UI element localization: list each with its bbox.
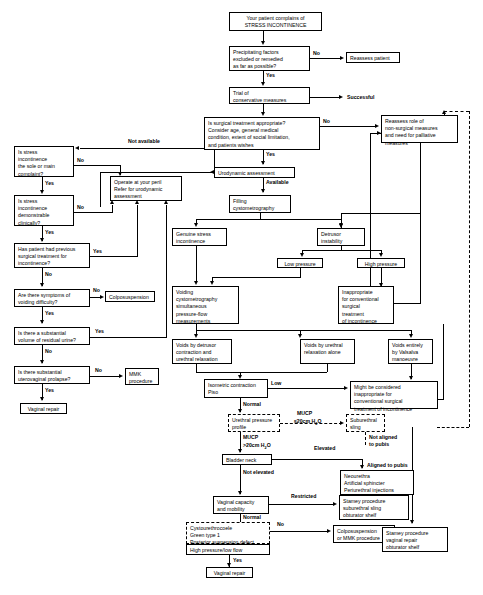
edge-prolapse-no bbox=[90, 376, 121, 377]
edge-label-no-void: No bbox=[93, 288, 100, 293]
edge-label-not-elevated: Not elevated bbox=[243, 470, 274, 475]
edge-vaginal-restricted bbox=[269, 504, 335, 505]
edge-label-available: Available bbox=[266, 180, 289, 185]
node-operate-peril: Operate at your peril Refer for urodynam… bbox=[110, 176, 182, 201]
edge-label-yes-void: Yes bbox=[45, 311, 54, 316]
arrowhead bbox=[238, 491, 242, 495]
edge-label-not-available: Not available bbox=[128, 139, 160, 144]
node-voids-urethral: Voids by urethral relaxation alone bbox=[300, 339, 355, 364]
arrowhead bbox=[194, 334, 198, 338]
node-inappropriate-conventional: Inappropriate for conventional surgical … bbox=[338, 286, 394, 324]
edge-inappropriate-down-h bbox=[438, 399, 444, 400]
edge-label-yes-prolapse: Yes bbox=[45, 388, 54, 393]
arrowhead bbox=[360, 465, 364, 469]
edge-genuine-to-voiding bbox=[196, 246, 197, 283]
node-stamey-vaginal: Stamey procedure vaginal repair obturato… bbox=[382, 527, 448, 552]
edge-reassess-branch-down bbox=[420, 143, 421, 303]
edge-cysto-no bbox=[270, 531, 329, 532]
arrowhead bbox=[340, 56, 344, 60]
node-voids-detrusor: Voids by detrusor contraction and urethr… bbox=[172, 339, 232, 364]
node-precipitating-factors: Precipitating factors excluded or remedi… bbox=[229, 46, 310, 71]
edge-voiding-split bbox=[196, 330, 411, 331]
node-stamey-suburethral: Stamey procedure suburethral sling obtur… bbox=[339, 495, 409, 520]
arrowhead bbox=[300, 253, 304, 257]
arrowhead bbox=[210, 281, 214, 285]
edge-bladder-elevated bbox=[272, 459, 362, 460]
node-residual-urine: Is there a substantial volume of residua… bbox=[14, 327, 90, 345]
node-vaginal-repair-left: Vaginal repair bbox=[20, 403, 67, 414]
edge-label-mucp-high-value: >20cm H2O bbox=[243, 443, 271, 451]
node-low-pressure: Low pressure bbox=[277, 258, 323, 268]
arrowhead bbox=[375, 124, 379, 128]
node-trial-conservative: Trial of conservative measures bbox=[229, 87, 310, 104]
edge-label-low: Low bbox=[271, 381, 281, 386]
edge-label-mucp-low-value: ≤20cm H2O bbox=[294, 419, 321, 427]
node-colposuspension: Colposuspension bbox=[105, 291, 155, 302]
node-vaginal-repair-bottom: Vaginal repair bbox=[206, 567, 253, 578]
arrowhead bbox=[340, 421, 344, 425]
edge-label-yes-demo: Yes bbox=[45, 230, 54, 235]
edge-merge-isometric bbox=[196, 372, 327, 373]
label-successful: Successful bbox=[347, 95, 374, 100]
node-voids-valsalva: Voids entirely by Valsalva manoeuvre bbox=[388, 339, 433, 364]
arrowhead bbox=[261, 41, 265, 45]
node-demonstrable: Is stress incontinence demonstrable clin… bbox=[14, 195, 74, 226]
node-voiding-cystometrography: Voiding cystometrography simultaneous pr… bbox=[172, 286, 239, 324]
flowchart-canvas: Your patient complains of STRESS INCONTI… bbox=[0, 0, 483, 595]
arrowhead bbox=[40, 320, 44, 324]
arrowhead bbox=[261, 82, 265, 86]
edge-label-no-1: No bbox=[313, 51, 320, 56]
edge-label-no-residual: No bbox=[45, 349, 52, 354]
edge-detrusor-right-connector bbox=[341, 213, 420, 214]
edge-inappropriate-down bbox=[443, 324, 444, 399]
edge-urodynamic-left-stub bbox=[100, 172, 101, 207]
node-high-pressure: High pressure bbox=[357, 258, 405, 268]
node-reassess-role: Reassess role of non-surgical measures a… bbox=[381, 115, 458, 143]
edge-prev-yes-up bbox=[137, 205, 138, 257]
edge-bladder-not-elevated bbox=[240, 465, 241, 494]
arrowhead bbox=[339, 95, 343, 99]
edge-prev-yes bbox=[90, 256, 137, 257]
arrowhead bbox=[40, 397, 44, 401]
arrowhead bbox=[409, 334, 413, 338]
arrowhead bbox=[379, 253, 383, 257]
arrowhead bbox=[238, 449, 242, 453]
edge-voids-urethral-down bbox=[327, 364, 328, 372]
arrowhead bbox=[298, 334, 302, 338]
arrowhead bbox=[194, 281, 198, 285]
edge-not-aligned bbox=[365, 432, 366, 445]
edge-voids-detrusor-down bbox=[196, 364, 197, 372]
feedback-loop-top bbox=[444, 111, 469, 112]
edge-label-yes-1: Yes bbox=[266, 73, 275, 78]
edge-label-yes-cysto: Yes bbox=[233, 558, 242, 563]
arrowhead bbox=[40, 238, 44, 242]
node-previous-surgery: Has patient had previous surgical treatm… bbox=[14, 243, 90, 268]
edge-sole-no bbox=[74, 165, 120, 166]
arrowhead bbox=[261, 161, 265, 165]
edge-label-elevated: Elevated bbox=[314, 446, 335, 451]
edge-label-yes-2: Yes bbox=[266, 152, 275, 157]
arrowhead bbox=[194, 223, 198, 227]
edge-label-no-2: No bbox=[323, 119, 330, 124]
node-voiding-difficulty: Are there symptoms of voiding difficulty… bbox=[14, 289, 90, 307]
edge-label-no-prolapse: No bbox=[95, 368, 102, 373]
arrowhead bbox=[40, 190, 44, 194]
edge-demo-no bbox=[74, 212, 112, 213]
arrowhead bbox=[40, 360, 44, 364]
node-might-be-considered: Might be considered inappropriate for co… bbox=[350, 381, 438, 409]
arrowhead bbox=[100, 295, 104, 299]
edge-low-pressure-down bbox=[300, 268, 301, 277]
arrowhead bbox=[409, 376, 413, 380]
node-high-pressure-low-flow: High pressure/low flow bbox=[186, 544, 270, 555]
feedback-loop-bottom bbox=[437, 427, 469, 428]
node-isometric: Isometric contraction Piso bbox=[204, 379, 268, 398]
node-sole-complaint: Is stress incontinence the sole or main … bbox=[14, 146, 74, 177]
edge-label-yes-residual: Yes bbox=[95, 329, 104, 334]
node-vaginal-capacity: Vaginal capacity and mobility bbox=[213, 496, 269, 514]
edge-label-normal-iso: Normal bbox=[243, 402, 261, 407]
edge-trial-successful bbox=[310, 97, 341, 98]
node-genuine-stress: Genuine stress incontinence bbox=[172, 228, 227, 246]
node-surgical-appropriate: Is surgical treatment appropriate? Consi… bbox=[204, 117, 320, 150]
edge-label-aligned-pubis: Aligned to pubis bbox=[367, 463, 408, 468]
edge-label-no-cysto: No bbox=[277, 522, 284, 527]
